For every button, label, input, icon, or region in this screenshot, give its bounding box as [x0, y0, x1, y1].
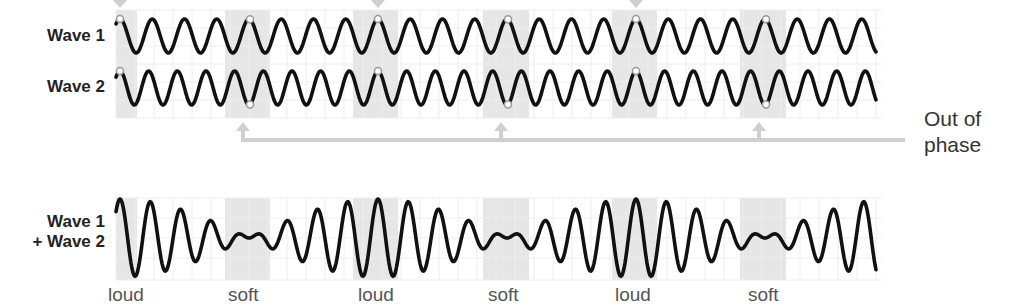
- in-phase-marker: [633, 16, 640, 23]
- beat-label-soft: soft: [488, 284, 519, 306]
- out-of-phase-connector-line: [241, 138, 905, 142]
- beat-label-soft: soft: [228, 284, 259, 306]
- in-phase-marker: [375, 68, 382, 75]
- beat-label-soft: soft: [748, 284, 779, 306]
- up-arrow-icon: [752, 122, 766, 131]
- in-phase-marker: [375, 16, 382, 23]
- down-arrow-icon: [113, 0, 127, 8]
- out-of-phase-marker: [763, 16, 770, 23]
- up-arrow-icon: [494, 122, 508, 131]
- beats-diagram: [0, 0, 1027, 308]
- in-phase-marker: [633, 68, 640, 75]
- in-phase-marker: [117, 16, 124, 23]
- sum-label-line1: Wave 1: [10, 212, 105, 232]
- out-of-phase-marker: [505, 16, 512, 23]
- wave-2-label: Wave 2: [20, 77, 105, 97]
- out-of-phase-label: Out of phase: [924, 106, 981, 158]
- wave-1-label: Wave 1: [20, 26, 105, 46]
- out-of-phase-marker: [247, 16, 254, 23]
- beat-label-loud: loud: [358, 284, 394, 306]
- down-arrow-icon: [371, 0, 385, 8]
- out-of-phase-line2: phase: [924, 132, 981, 158]
- in-phase-marker: [117, 68, 124, 75]
- out-of-phase-marker: [763, 101, 770, 108]
- out-of-phase-marker: [247, 101, 254, 108]
- up-arrow-icon: [236, 122, 250, 131]
- out-of-phase-marker: [505, 101, 512, 108]
- sum-label-line2: + Wave 2: [10, 232, 105, 252]
- out-of-phase-line1: Out of: [924, 106, 981, 132]
- down-arrow-icon: [629, 0, 643, 8]
- beat-label-loud: loud: [108, 284, 144, 306]
- beat-label-loud: loud: [615, 284, 651, 306]
